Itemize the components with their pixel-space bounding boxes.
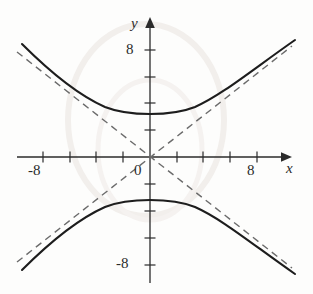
y-tick-label-positive-8: 8 [126,42,134,57]
y-axis-label: y [131,16,138,31]
y-axis [145,17,155,283]
asymptote-negative-slope [17,52,292,268]
x-tick-label-negative-8: -8 [28,163,41,178]
x-axis-label: x [286,161,293,176]
background-watermark [68,24,224,220]
origin-label: 0 [134,163,142,178]
plot-canvas [0,0,313,294]
y-tick-label-negative-8: -8 [116,256,129,271]
hyperbola-upper-branch [22,40,295,114]
hyperbola-figure: -8 8 8 -8 0 x y [0,0,313,294]
x-tick-label-positive-8: 8 [247,163,255,178]
x-axis [17,152,292,162]
hyperbola-lower-branch [22,200,295,274]
